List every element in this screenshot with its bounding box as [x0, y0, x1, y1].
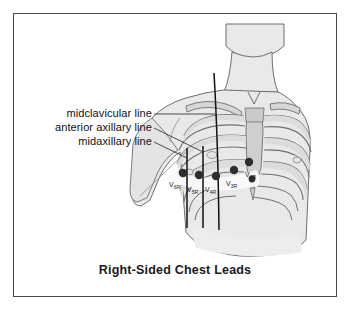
annotation-label-midaxillary: midaxillary line: [0, 135, 152, 147]
annotation-label-anterior-axillary: anterior axillary line: [0, 121, 152, 133]
figure-container: V6R V5R V4R V3R V2R midclavicular line a…: [0, 0, 351, 313]
electrode-v6r: [179, 169, 187, 177]
electrode-v5r: [195, 171, 203, 179]
electrode-label-v3r: V3R: [226, 180, 237, 187]
electrode-label-v4r: V4R: [205, 186, 216, 193]
figure-caption: Right-Sided Chest Leads: [13, 263, 337, 277]
manubrium: [245, 108, 264, 122]
annotation-label-midclavicular: midclavicular line: [0, 107, 152, 119]
electrode-label-v6r: V6R: [169, 181, 180, 188]
neck-shape: [224, 52, 278, 92]
electrode-v3r: [230, 166, 238, 174]
intercostal-marker-c: [293, 157, 301, 163]
electrode-v4r: [212, 172, 220, 180]
electrode-v2r: [245, 158, 253, 166]
intercostal-marker-a: [207, 152, 217, 159]
electrode-label-v5r: V5R: [187, 186, 198, 193]
electrode-label-v2r: V2R: [245, 171, 256, 178]
